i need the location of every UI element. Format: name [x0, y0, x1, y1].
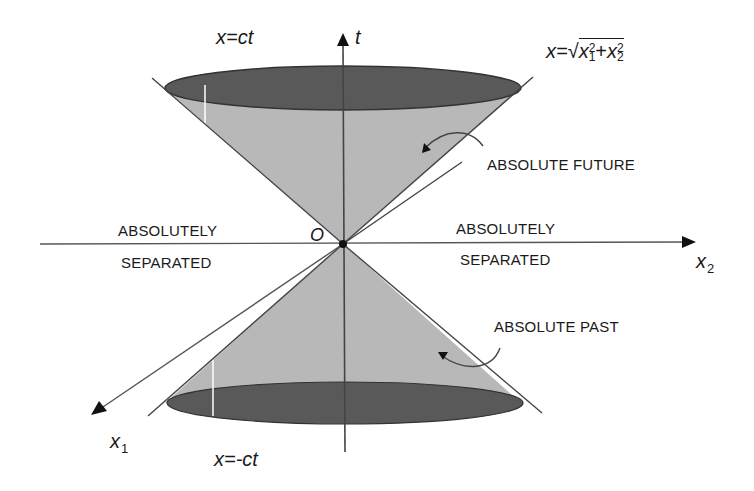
- sqrt-icon: √: [568, 40, 579, 62]
- cone-equation-radicand: x21+x22: [579, 38, 624, 63]
- t-axis-label: t: [355, 26, 361, 49]
- past-line-equation: x=-ct: [214, 448, 258, 471]
- future-line-equation: x=ct: [216, 26, 253, 49]
- x2-subscript: 2: [707, 261, 714, 276]
- x2-axis-arrowhead-icon: [682, 236, 696, 248]
- left-separated-line2: SEPARATED: [121, 254, 211, 271]
- cone-term2-sub: 2: [617, 53, 624, 62]
- x1-axis-arrowhead-icon: [91, 401, 107, 415]
- light-cone-diagram: [0, 0, 754, 491]
- cone-equation-lhs: x=: [546, 40, 568, 62]
- right-separated-line2: SEPARATED: [460, 251, 550, 268]
- absolute-future-label: ABSOLUTE FUTURE: [487, 156, 635, 173]
- origin-point: [339, 240, 347, 248]
- cone-term2: x: [607, 40, 617, 62]
- cone-term1: x: [579, 40, 589, 62]
- origin-label: O: [310, 225, 324, 246]
- cone-equation: x=√x21+x22: [546, 38, 624, 63]
- cone-plus: +: [595, 40, 607, 62]
- x1-letter: x: [110, 430, 120, 452]
- x2-axis-label: x2: [696, 250, 714, 276]
- right-separated-line1: ABSOLUTELY: [456, 220, 555, 237]
- x1-axis-label: x1: [110, 430, 128, 456]
- x1-subscript: 1: [121, 441, 128, 456]
- t-axis-arrowhead-icon: [337, 33, 349, 46]
- absolute-past-label: ABSOLUTE PAST: [494, 318, 619, 335]
- x2-axis[interactable]: [40, 242, 686, 244]
- left-separated-line1: ABSOLUTELY: [118, 222, 217, 239]
- x2-letter: x: [696, 250, 706, 272]
